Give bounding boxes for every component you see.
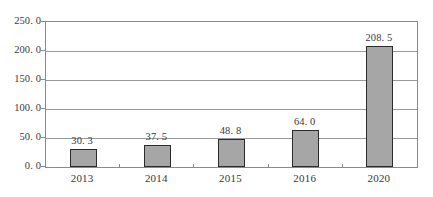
bar-chart: 0. 0 50. 0 100. 0 150. 0 200. 0 250. 0 .… — [0, 0, 433, 197]
x-axis-label-2013: 2013 — [71, 173, 94, 184]
bar-2016 — [292, 130, 319, 167]
bar-value-label-2013: 30. 3 — [71, 136, 93, 147]
x-axis-tick-mark — [193, 164, 194, 168]
bar-2020 — [366, 46, 393, 167]
gridline — [46, 51, 417, 52]
y-axis-tick-label: 0. 0 — [25, 161, 41, 172]
bar-value-label-2016: 64. 0 — [294, 117, 316, 128]
x-axis-tick-mark — [268, 164, 269, 168]
gridline — [46, 80, 417, 81]
gridline — [46, 109, 417, 110]
plot-area — [45, 21, 418, 168]
bar-value-label-2020: 208. 5 — [365, 33, 392, 44]
bar-2015 — [218, 139, 245, 167]
x-axis-label-2015: 2015 — [219, 173, 242, 184]
y-axis-tick-label: 200. 0 — [14, 45, 41, 56]
bar-2013 — [70, 149, 97, 167]
x-axis-label-2014: 2014 — [145, 173, 168, 184]
bar-value-label-2014: 37. 5 — [146, 132, 168, 143]
bar-2014 — [144, 145, 171, 167]
bar-value-label-2015: 48. 8 — [220, 126, 242, 137]
y-axis-tick-label: 50. 0 — [20, 132, 42, 143]
y-axis-tick-label: 250. 0 — [14, 16, 41, 27]
y-axis-tick-label: 100. 0 — [14, 103, 41, 114]
x-axis-tick-mark — [119, 164, 120, 168]
y-axis-tick-label: 150. 0 — [14, 74, 41, 85]
x-axis-tick-mark — [342, 164, 343, 168]
x-axis-label-2016: 2016 — [293, 173, 316, 184]
x-axis-label-2020: 2020 — [367, 173, 390, 184]
